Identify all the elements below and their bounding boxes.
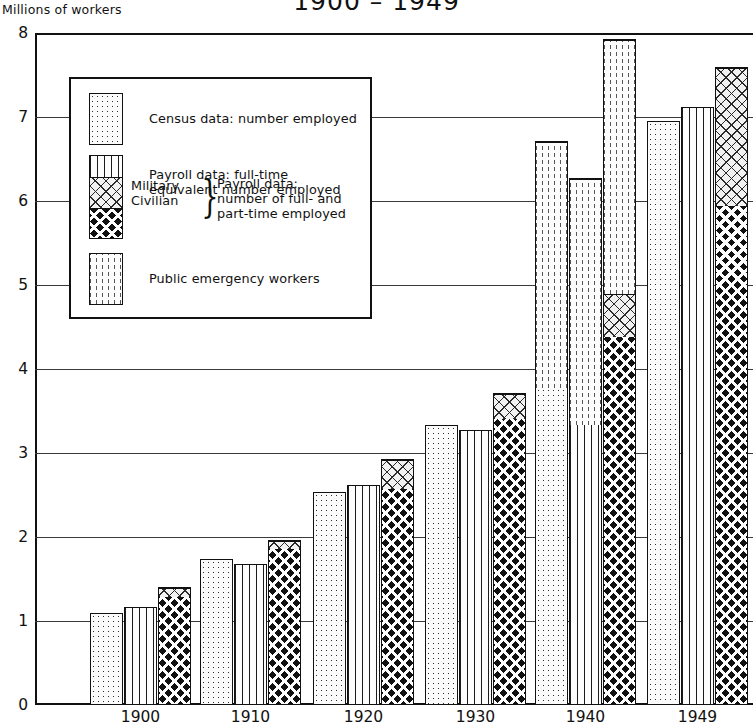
bar-payroll-all-1949	[715, 67, 748, 705]
bar-segment-payroll	[235, 565, 266, 704]
bar-payroll-fulltime-1920	[347, 485, 380, 705]
bar-segment-civilian	[716, 206, 747, 704]
legend-desc-line3: part-time employed	[217, 206, 346, 221]
bar-group-1940	[535, 33, 636, 705]
chart-figure: 1900 – 1949 Millions of workers 01234567…	[0, 0, 753, 723]
x-tick-label-1910: 1910	[231, 708, 270, 723]
x-tick-label-1940: 1940	[566, 708, 605, 723]
legend-description-payroll-all: Payroll data: number of full- and part-t…	[217, 176, 346, 221]
bar-segment-civilian	[269, 549, 300, 704]
legend-desc-line2: number of full- and	[217, 191, 346, 206]
legend-label-census: Census data: number employed	[149, 111, 357, 126]
bar-segment-civilian	[604, 337, 635, 704]
bar-segment-military	[269, 541, 300, 548]
bar-segment-military	[159, 588, 190, 597]
x-tick-label-1920: 1920	[344, 708, 383, 723]
y-tick-label-1: 1	[0, 612, 28, 630]
legend-desc-line1: Payroll data:	[217, 176, 346, 191]
bar-payroll-all-1920	[381, 459, 414, 705]
y-tick-label-0: 0	[0, 696, 28, 714]
y-tick-label-7: 7	[0, 108, 28, 126]
legend-label-emergency: Public emergency workers	[149, 271, 320, 286]
legend-item-emergency: Public emergency workers	[89, 253, 320, 305]
bar-segment-emergency	[536, 142, 567, 387]
bar-segment-payroll	[682, 108, 713, 704]
bar-segment-military	[604, 294, 635, 338]
bar-census-1910	[200, 559, 233, 705]
x-tick-label-1930: 1930	[456, 708, 495, 723]
legend-swatch-military	[90, 178, 122, 208]
bar-segment-civilian	[494, 419, 525, 704]
bar-segment-military	[382, 460, 413, 489]
bar-segment-military	[716, 68, 747, 206]
y-tick-label-8: 8	[0, 24, 28, 42]
bar-payroll-fulltime-1910	[234, 564, 267, 705]
legend-label-civilian: Civilian	[131, 193, 179, 208]
bar-payroll-fulltime-1949	[681, 107, 714, 705]
bar-segment-census	[314, 493, 345, 704]
bar-payroll-fulltime-1900	[124, 607, 157, 705]
legend-swatch-emergency	[89, 253, 123, 305]
legend-label-military: Military	[131, 178, 179, 193]
bar-segment-census	[426, 426, 457, 704]
bar-payroll-all-1930	[493, 393, 526, 705]
bar-census-1930	[425, 425, 458, 705]
bar-segment-payroll	[460, 431, 491, 704]
bar-segment-civilian	[382, 489, 413, 704]
bar-payroll-fulltime-1940	[569, 178, 602, 705]
legend-swatch-military-civilian	[89, 177, 123, 239]
bar-segment-census	[648, 122, 679, 704]
y-tick-label-6: 6	[0, 192, 28, 210]
x-tick-label-1949: 1949	[678, 708, 717, 723]
y-tick-label-2: 2	[0, 528, 28, 546]
bar-segment-emergency	[570, 179, 601, 424]
bar-segment-payroll	[570, 425, 601, 704]
bar-segment-census	[201, 560, 232, 704]
y-tick-label-4: 4	[0, 360, 28, 378]
bar-segment-military	[494, 394, 525, 418]
bar-group-1930	[425, 33, 526, 705]
y-axis-title: Millions of workers	[2, 2, 122, 17]
bar-payroll-all-1900	[158, 587, 191, 705]
bar-segment-census	[536, 388, 567, 704]
bar-segment-emergency	[604, 40, 635, 294]
bar-segment-payroll	[348, 486, 379, 704]
legend-swatch-census	[89, 93, 123, 145]
y-tick-label-3: 3	[0, 444, 28, 462]
legend-item-census: Census data: number employed	[89, 93, 357, 145]
bar-payroll-all-1940	[603, 39, 636, 705]
bar-census-1949	[647, 121, 680, 705]
bar-segment-payroll	[125, 608, 156, 704]
x-tick-label-1900: 1900	[121, 708, 160, 723]
bar-census-1940	[535, 141, 568, 705]
bar-payroll-fulltime-1930	[459, 430, 492, 705]
legend-labels-military-civilian: Military Civilian	[131, 178, 179, 208]
bar-group-1949	[647, 33, 748, 705]
chart-legend: Census data: number employed Payroll dat…	[69, 77, 372, 319]
bar-census-1920	[313, 492, 346, 705]
legend-swatch-civilian	[90, 208, 122, 238]
bar-segment-census	[91, 614, 122, 704]
bar-payroll-all-1910	[268, 540, 301, 705]
y-tick-label-5: 5	[0, 276, 28, 294]
bar-census-1900	[90, 613, 123, 705]
bar-segment-civilian	[159, 597, 190, 704]
